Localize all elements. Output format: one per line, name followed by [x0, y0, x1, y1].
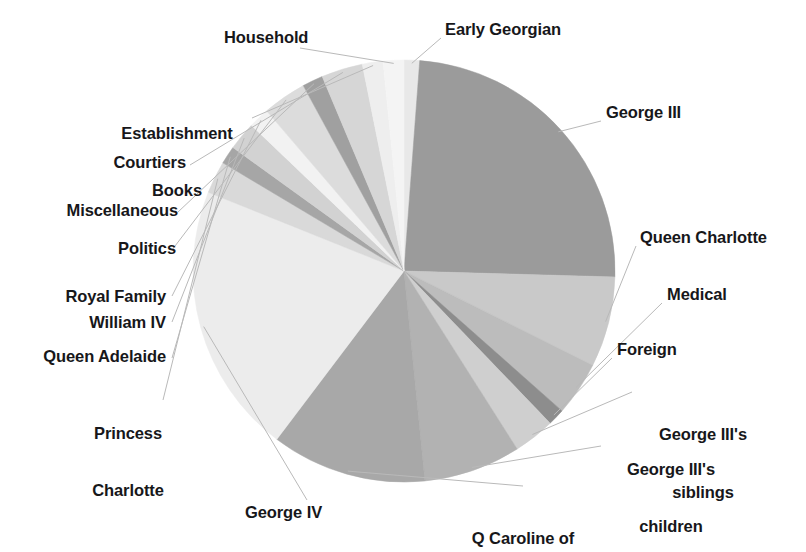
leader-line — [412, 38, 441, 63]
slice-label-princess-charlotte-line2: Charlotte — [69, 481, 187, 500]
slice-label-establishment-books-line2: Books — [104, 181, 250, 200]
slice-label-george-iv: George IV — [245, 503, 322, 522]
leader-line — [558, 121, 601, 132]
slice-label-foreign: Foreign — [617, 340, 677, 359]
slice-label-q-caroline-line1: Q Caroline of — [453, 529, 593, 548]
pie-chart-figure: Early Georgian George III Queen Charlott… — [0, 0, 806, 552]
slice-label-queen-adelaide: Queen Adelaide — [18, 347, 166, 366]
slice-label-george-iii: George III — [606, 103, 681, 122]
leader-line — [300, 48, 394, 63]
slice-label-princess-charlotte-line1: Princess — [69, 424, 187, 443]
slice-label-early-georgian: Early Georgian — [445, 20, 561, 39]
slice-label-politics: Politics — [48, 239, 176, 258]
slice-label-household: Household — [224, 28, 308, 47]
slice-label-establishment-books-line1: Establishment — [104, 124, 250, 143]
pie-slices-group — [193, 60, 615, 482]
slice-label-george-iii-children-line1: George III's — [605, 460, 737, 479]
slice-label-queen-charlotte: Queen Charlotte — [640, 228, 767, 247]
slice-label-royal-family: Royal Family — [28, 287, 166, 306]
pie-slice — [404, 61, 615, 277]
slice-label-william-iv: William IV — [38, 313, 166, 332]
slice-label-george-iii-children-line2: children — [605, 517, 737, 536]
slice-label-medical: Medical — [667, 285, 727, 304]
